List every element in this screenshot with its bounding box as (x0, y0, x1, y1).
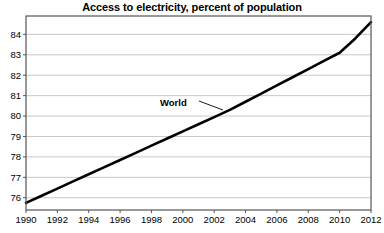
y-tick-label-78: 78 (10, 151, 21, 162)
y-tick-label-82: 82 (10, 70, 21, 81)
y-tick-label-80: 80 (10, 110, 21, 121)
x-tick-label-2008: 2008 (298, 214, 319, 225)
x-tick-label-1990: 1990 (15, 214, 36, 225)
x-tick-label-2000: 2000 (172, 214, 193, 225)
x-tick-label-1996: 1996 (110, 214, 131, 225)
x-tick-label-2006: 2006 (266, 214, 287, 225)
x-tick-label-2010: 2010 (329, 214, 350, 225)
x-tick-label-1994: 1994 (78, 214, 99, 225)
chart-container: Access to electricity, percent of popula… (0, 0, 384, 233)
annotation-label-world: World (160, 97, 187, 108)
y-tick-label-84: 84 (10, 29, 21, 40)
x-tick-label-2002: 2002 (204, 214, 225, 225)
x-axis-tick-labels: 1990199219941996199820002002200420062008… (15, 214, 381, 225)
x-tick-label-2012: 2012 (360, 214, 381, 225)
y-axis-tick-labels: 767778798081828384 (10, 29, 21, 203)
x-tick-label-1992: 1992 (47, 214, 68, 225)
y-tick-label-79: 79 (10, 131, 21, 142)
y-tick-label-81: 81 (10, 90, 21, 101)
chart-plot: 767778798081828384 199019921994199619982… (0, 0, 384, 233)
x-tick-label-1998: 1998 (141, 214, 162, 225)
y-tick-label-77: 77 (10, 172, 21, 183)
y-tick-label-76: 76 (10, 192, 21, 203)
x-tick-label-2004: 2004 (235, 214, 256, 225)
plot-background (26, 16, 371, 210)
y-tick-label-83: 83 (10, 49, 21, 60)
